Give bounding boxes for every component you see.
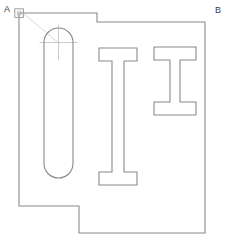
drawing-svg [0,0,228,251]
drawing-canvas: A B [0,0,228,251]
i-beam-tall [99,48,137,185]
vertex-label-b: B [215,6,221,15]
i-beam-short [154,47,196,115]
vertex-label-a: A [4,5,10,14]
